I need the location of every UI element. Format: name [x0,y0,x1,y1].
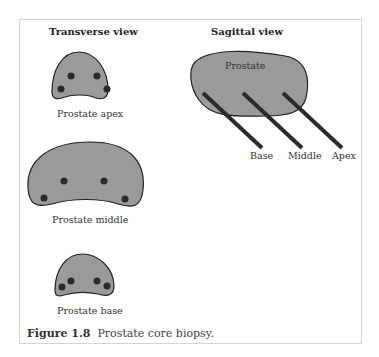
needle-label-middle: Middle [288,150,322,161]
needle-label-base: Base [250,150,273,161]
sagittal-view-title: Sagittal view [211,26,283,37]
needle-label-apex: Apex [332,150,356,161]
middle-section-shape [28,142,143,206]
transverse-view-title: Transverse view [49,26,138,37]
figure-number: Figure 1.8 [27,327,90,340]
sagittal-organ-label: Prostate [225,60,265,71]
apex-section-label: Prostate apex [57,108,123,119]
figure-caption-text: Prostate core biopsy. [97,327,214,340]
apex-section-shape [52,52,111,99]
diagram-graphic [0,0,379,357]
base-section-label: Prostate base [57,305,123,316]
figure-caption: Figure 1.8 Prostate core biopsy. [27,327,214,340]
middle-section-label: Prostate middle [52,214,128,225]
base-section-shape [55,254,114,296]
